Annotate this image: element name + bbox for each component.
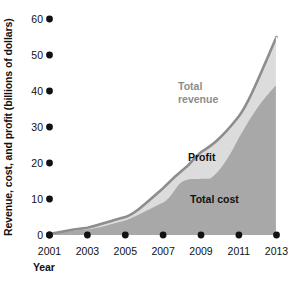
- x-tick-label-2013: 2013: [265, 245, 289, 257]
- y-tick-dot-20: [46, 160, 53, 167]
- x-tick-dot-2009: [198, 232, 205, 239]
- x-tick-dot-2007: [160, 232, 167, 239]
- x-tick-dot-2005: [122, 232, 129, 239]
- x-tick-label-2003: 2003: [76, 245, 100, 257]
- x-tick-dot-2011: [236, 232, 243, 239]
- y-tick-dot-40: [46, 88, 53, 95]
- y-tick-dot-50: [46, 52, 53, 59]
- x-tick-dot-2013: [273, 232, 280, 239]
- y-tick-label-20: 20: [31, 157, 43, 169]
- y-tick-dot-60: [46, 16, 53, 23]
- total-revenue-label-line2: revenue: [178, 93, 218, 105]
- y-tick-label-60: 60: [31, 13, 43, 25]
- y-tick-dot-10: [46, 196, 53, 203]
- x-tick-label-2009: 2009: [189, 245, 213, 257]
- y-tick-label-40: 40: [31, 85, 43, 97]
- y-tick-label-0: 0: [37, 229, 43, 241]
- x-tick-label-2007: 2007: [151, 245, 175, 257]
- y-tick-label-50: 50: [31, 49, 43, 61]
- y-tick-label-10: 10: [31, 193, 43, 205]
- revenue-cost-profit-area-chart: Revenue, cost, and profit (billions of d…: [0, 0, 302, 283]
- y-tick-dot-30: [46, 124, 53, 131]
- y-tick-label-30: 30: [31, 121, 43, 133]
- y-axis-title: Revenue, cost, and profit (billions of d…: [2, 18, 14, 236]
- chart-container: Revenue, cost, and profit (billions of d…: [0, 0, 302, 283]
- profit-label: Profit: [188, 151, 216, 163]
- x-tick-label-2005: 2005: [114, 245, 138, 257]
- total-revenue-label-line1: Total: [178, 80, 202, 92]
- x-tick-dot-2003: [84, 232, 91, 239]
- x-axis-title: Year: [33, 261, 55, 273]
- x-tick-label-2011: 2011: [228, 245, 251, 257]
- total-cost-label: Total cost: [190, 193, 239, 205]
- x-tick-dot-2001: [46, 232, 53, 239]
- x-tick-label-2001: 2001: [38, 245, 62, 257]
